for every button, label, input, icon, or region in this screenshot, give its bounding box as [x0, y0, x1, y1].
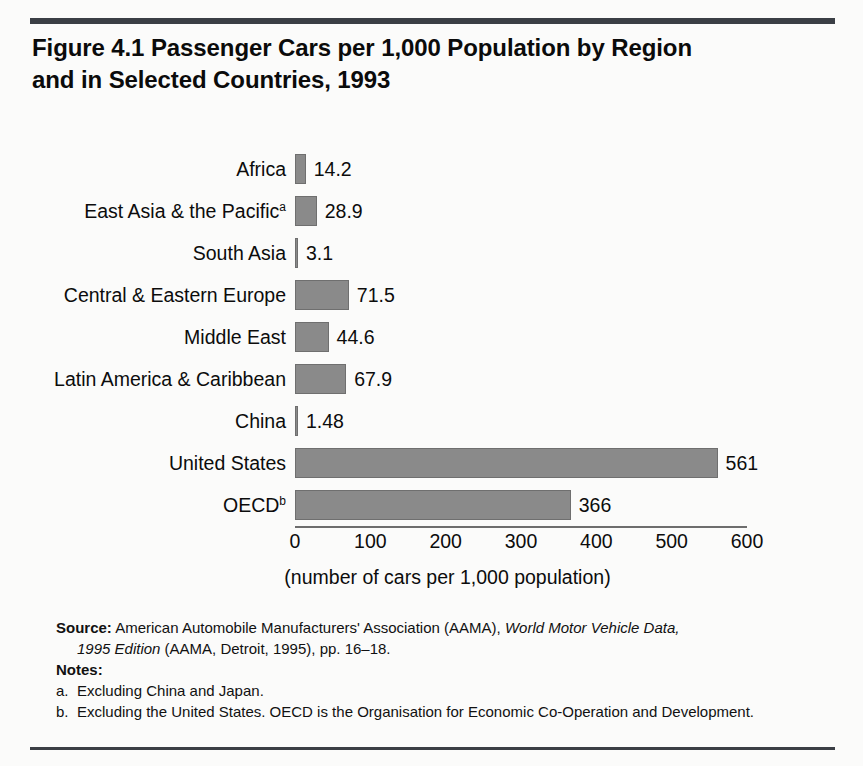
notes-list: a.Excluding China and Japan.b.Excluding … — [56, 681, 836, 722]
bar — [295, 322, 329, 352]
x-tick-label: 300 — [505, 530, 538, 553]
chart-row: Africa14.2 — [0, 148, 863, 190]
bar-value-label: 1.48 — [298, 400, 344, 442]
bar-value-label: 28.9 — [317, 190, 363, 232]
x-tick-label: 500 — [655, 530, 688, 553]
source-italic-b: 1995 Edition — [77, 640, 160, 657]
chart-row: Middle East44.6 — [0, 316, 863, 358]
bar-value-label: 71.5 — [349, 274, 395, 316]
chart-row: South Asia3.1 — [0, 232, 863, 274]
category-label: South Asia — [193, 232, 295, 274]
note-item: b.Excluding the United States. OECD is t… — [56, 702, 836, 723]
category-label: Middle East — [184, 316, 295, 358]
bar-rows: Africa14.2East Asia & the Pacifica28.9So… — [0, 148, 863, 526]
bar-value-label: 14.2 — [306, 148, 352, 190]
source-label: Source: — [56, 619, 112, 636]
bar — [295, 490, 571, 520]
chart-row: United States561 — [0, 442, 863, 484]
chart-row: Latin America & Caribbean67.9 — [0, 358, 863, 400]
bar — [295, 448, 718, 478]
category-label: China — [235, 400, 295, 442]
x-axis-tick-labels: 0100200300400500600 — [0, 530, 863, 556]
notes-heading: Notes: — [56, 660, 836, 681]
note-marker: b. — [56, 702, 69, 723]
note-text: Excluding the United States. OECD is the… — [77, 703, 754, 720]
category-label: Central & Eastern Europe — [64, 274, 295, 316]
category-footnote-marker: a — [279, 200, 286, 214]
bar-value-label: 44.6 — [329, 316, 375, 358]
bar — [295, 364, 346, 394]
x-tick-label: 100 — [354, 530, 387, 553]
x-tick-label: 400 — [580, 530, 613, 553]
x-axis-title: (number of cars per 1,000 population) — [0, 566, 863, 589]
bar — [295, 280, 349, 310]
category-label: Latin America & Caribbean — [54, 358, 295, 400]
source-text-b: (AAMA, Detroit, 1995), pp. 16–18. — [160, 640, 390, 657]
bar — [295, 196, 317, 226]
category-label: United States — [169, 442, 295, 484]
bar-value-label: 561 — [718, 442, 759, 484]
chart-row: East Asia & the Pacifica28.9 — [0, 190, 863, 232]
chart-row: OECDb366 — [0, 484, 863, 526]
note-text: Excluding China and Japan. — [77, 682, 264, 699]
bar-value-label: 3.1 — [298, 232, 333, 274]
source-line-1: Source: American Automobile Manufacturer… — [56, 618, 836, 639]
note-item: a.Excluding China and Japan. — [56, 681, 836, 702]
source-italic-a: World Motor Vehicle Data, — [505, 619, 680, 636]
x-tick-label: 200 — [429, 530, 462, 553]
source-line-2: 1995 Edition (AAMA, Detroit, 1995), pp. … — [56, 639, 836, 660]
bottom-rule — [30, 747, 835, 750]
chart-row: China1.48 — [0, 400, 863, 442]
x-axis-line — [295, 526, 747, 528]
bar-value-label: 366 — [571, 484, 612, 526]
source-text-a: American Automobile Manufacturers' Assoc… — [112, 619, 505, 636]
note-marker: a. — [56, 681, 69, 702]
chart-row: Central & Eastern Europe71.5 — [0, 274, 863, 316]
category-footnote-marker: b — [279, 494, 286, 508]
x-tick-label: 600 — [731, 530, 764, 553]
x-tick-label: 0 — [290, 530, 301, 553]
x-axis-title-text: (number of cars per 1,000 population) — [284, 566, 610, 589]
bar-value-label: 67.9 — [346, 358, 392, 400]
category-label: East Asia & the Pacifica — [84, 190, 295, 232]
figure-footnotes: Source: American Automobile Manufacturer… — [56, 618, 836, 722]
category-label: Africa — [236, 148, 295, 190]
category-label: OECDb — [223, 484, 295, 526]
chart-plot-area: Africa14.2East Asia & the Pacifica28.9So… — [0, 148, 863, 548]
top-rule — [30, 18, 835, 24]
figure-container: Figure 4.1 Passenger Cars per 1,000 Popu… — [0, 0, 863, 766]
bar — [295, 154, 306, 184]
figure-title: Figure 4.1 Passenger Cars per 1,000 Popu… — [32, 32, 732, 96]
